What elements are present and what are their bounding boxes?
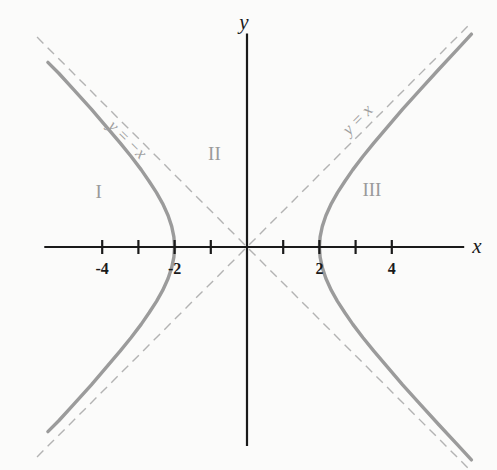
region-label-iii: III [362,180,381,199]
x-axis-label: x [472,236,481,257]
x-tick-label-2: 2 [315,261,323,277]
x-tick-label-4: 4 [388,261,396,277]
y-axis-label: y [239,12,248,33]
x-tick-label--2: -2 [168,261,181,277]
region-label-ii: II [208,143,221,162]
right-branch-lower [319,247,471,460]
right-branch-upper [319,34,471,247]
region-label-i: I [95,181,101,200]
plot-canvas [0,0,497,470]
x-tick-label--4: -4 [96,261,109,277]
hyperbola-figure: x y -4-224 IIIIII y = −xy = x [0,0,497,470]
